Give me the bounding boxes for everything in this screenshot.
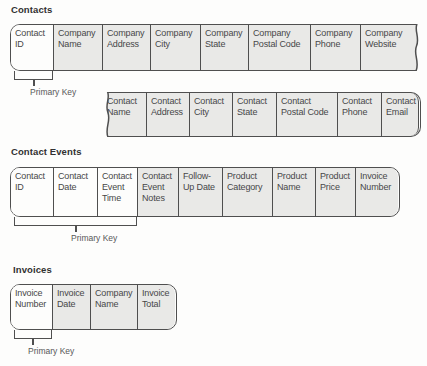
torn-edge-icon [412,24,421,71]
cell-invoice-number: Invoice Number [11,285,53,329]
cell-product-name: Product Name [273,168,316,216]
cell-contact-id: Contact ID [11,25,54,70]
contacts-fields-row-2: Contact Name Contact Address Contact Cit… [103,92,421,137]
cell-invoice-total: Invoice Total [138,285,175,329]
cell-contact-postal-code: Contact Postal Code [277,93,338,136]
contact-events-fields-row: Contact ID Contact Date Contact Event Ti… [10,167,400,217]
cell-contact-state: Contact State [233,93,277,136]
primary-key-label-contact-events: Primary Key [71,233,117,243]
primary-key-tick-contact-events [75,225,77,232]
cell-company-state: Company State [201,25,249,70]
cell-invoice-date: Invoice Date [53,285,91,329]
cell-contact-city: Contact City [190,93,233,136]
primary-key-tick-contacts [33,79,35,86]
primary-key-label-invoices: Primary Key [28,346,74,356]
primary-key-label-contacts: Primary Key [30,87,76,97]
table-title-contacts: Contacts [11,4,52,15]
database-schema-diagram: Contacts Contact ID Company Name Company… [0,0,427,366]
cell-contact-event-time: Contact Event Time [98,168,138,216]
cell-product-category: Product Category [223,168,273,216]
cell-company-address: Company Address [103,25,151,70]
cell-contact-phone: Contact Phone [338,93,382,136]
cell-company-website: Company Website [361,25,419,70]
primary-key-tick-invoices [32,338,34,345]
cell-contact-event-notes: Contact Event Notes [138,168,179,216]
invoices-fields-row: Invoice Number Invoice Date Company Name… [10,284,177,330]
cell-contact-email: Contact Email [382,93,419,136]
cell-contact-address: Contact Address [147,93,190,136]
table-title-invoices: Invoices [13,264,52,275]
cell-product-price: Product Price [316,168,356,216]
cell-company-phone: Company Phone [311,25,361,70]
cell-company-city: Company City [151,25,201,70]
cell-invoice-number: Invoice Number [356,168,398,216]
table-title-contact-events: Contact Events [11,146,82,157]
cell-company-name: Company Name [54,25,103,70]
cell-company-name: Company Name [91,285,138,329]
cell-company-postal-code: Company Postal Code [249,25,311,70]
contacts-fields-row-1: Contact ID Company Name Company Address … [10,24,421,71]
cell-contact-id: Contact ID [11,168,54,216]
cell-contact-date: Contact Date [54,168,98,216]
torn-edge-icon [103,92,112,137]
cell-follow-up-date: Follow-Up Date [179,168,223,216]
